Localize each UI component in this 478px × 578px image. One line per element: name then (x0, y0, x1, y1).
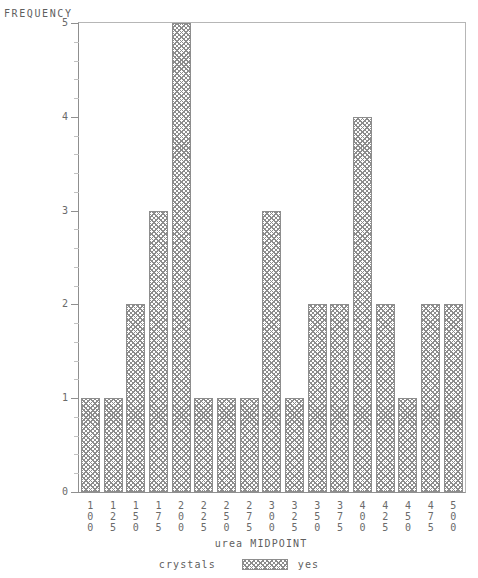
x-axis-tick-label: 450 (397, 500, 420, 533)
x-axis-tick-labels: 1001251501752002252502753003253503754004… (79, 500, 465, 533)
bar[interactable] (194, 398, 213, 492)
y-axis-tick-label: 3 (52, 205, 68, 216)
x-axis-title: urea MIDPOINT (0, 538, 478, 549)
x-axis-tick-label: 100 (79, 500, 102, 533)
x-axis-tick-label: 200 (170, 500, 193, 533)
x-axis-tick-label: 150 (124, 500, 147, 533)
plot-area (79, 23, 465, 492)
bar-slot (124, 23, 147, 492)
y-axis-tick-label: 0 (52, 486, 68, 497)
bar[interactable] (308, 304, 327, 492)
bar[interactable] (104, 398, 123, 492)
bar-slot (79, 23, 102, 492)
bar[interactable] (376, 304, 395, 492)
bar[interactable] (126, 304, 145, 492)
bar[interactable] (330, 304, 349, 492)
frequency-bar-chart: FREQUENCY 012345 10012515017520022525027… (0, 0, 478, 578)
bar-slot (147, 23, 170, 492)
bar-slot (261, 23, 284, 492)
x-axis-tick-label: 225 (192, 500, 215, 533)
bar-slot (283, 23, 306, 492)
bar-slot (374, 23, 397, 492)
legend-label-yes: yes (298, 559, 319, 570)
bar-slot (351, 23, 374, 492)
bar[interactable] (353, 117, 372, 492)
x-axis-tick-label: 500 (442, 500, 465, 533)
bar-slot (192, 23, 215, 492)
bar-slot (102, 23, 125, 492)
bar-slot (329, 23, 352, 492)
legend-title: crystals (159, 559, 216, 570)
y-axis-tick-label: 4 (52, 111, 68, 122)
x-axis-tick-label: 250 (215, 500, 238, 533)
x-axis-tick-label: 175 (147, 500, 170, 533)
bar[interactable] (240, 398, 259, 492)
legend-swatch-yes (242, 559, 288, 570)
x-axis-tick-label: 325 (283, 500, 306, 533)
x-axis-tick-label: 125 (102, 500, 125, 533)
x-axis-tick-label: 375 (329, 500, 352, 533)
bar[interactable] (172, 23, 191, 492)
x-axis-tick-label: 350 (306, 500, 329, 533)
bar[interactable] (421, 304, 440, 492)
bar-series (79, 23, 465, 492)
bar[interactable] (444, 304, 463, 492)
bar-slot (397, 23, 420, 492)
bar-slot (170, 23, 193, 492)
legend: crystals yes (0, 559, 478, 570)
bar[interactable] (149, 211, 168, 492)
bar-slot (238, 23, 261, 492)
x-axis-tick-label: 400 (351, 500, 374, 533)
bar[interactable] (285, 398, 304, 492)
y-axis-tick-label: 2 (52, 298, 68, 309)
x-axis-tick-label: 425 (374, 500, 397, 533)
y-axis-tick-label: 1 (52, 392, 68, 403)
bar-slot (306, 23, 329, 492)
x-axis-tick-label: 300 (261, 500, 284, 533)
bar-slot (442, 23, 465, 492)
bar-slot (419, 23, 442, 492)
bar[interactable] (398, 398, 417, 492)
bar[interactable] (217, 398, 236, 492)
chart-title-strip (0, 0, 478, 7)
x-axis-tick-label: 475 (419, 500, 442, 533)
bar[interactable] (262, 211, 281, 492)
x-axis-tick-label: 275 (238, 500, 261, 533)
y-axis-title: FREQUENCY (4, 8, 73, 19)
bar[interactable] (81, 398, 100, 492)
bar-slot (215, 23, 238, 492)
